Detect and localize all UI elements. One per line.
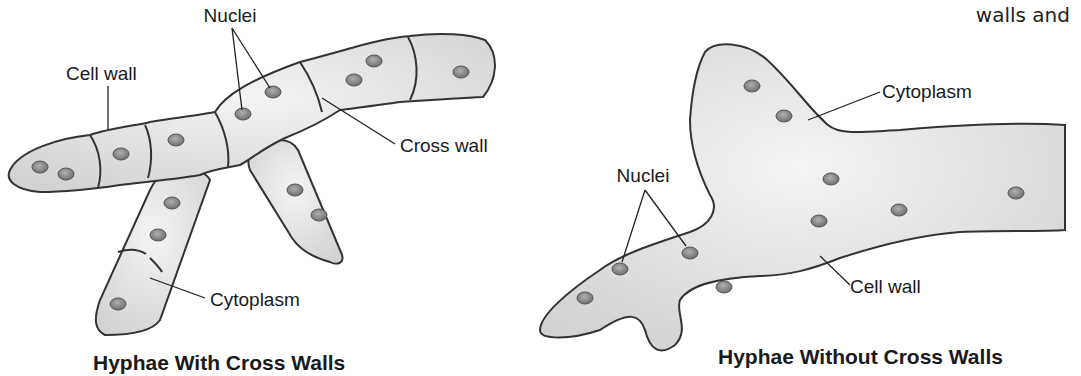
label-cytoplasm-right: Cytoplasm (882, 81, 972, 102)
label-nuclei-right: Nuclei (617, 165, 670, 186)
lower-branch (96, 169, 210, 335)
label-cell-wall-left: Cell wall (66, 63, 137, 84)
label-cross-wall: Cross wall (400, 135, 488, 156)
label-cell-wall-right: Cell wall (850, 276, 921, 297)
title-coenocytic: Hyphae Without Cross Walls (718, 345, 1003, 368)
hyphae-diagram: walls and (0, 0, 1081, 376)
coenocytic-hyphae: Nuclei Cytoplasm Cell wall Hyphae Withou… (540, 44, 1065, 368)
label-cytoplasm-left: Cytoplasm (210, 289, 300, 310)
right-branch (248, 140, 342, 264)
title-septate: Hyphae With Cross Walls (93, 351, 345, 374)
label-nuclei-left: Nuclei (204, 5, 257, 26)
septate-hyphae: Nuclei Cell wall Cross wall Cytoplasm Hy… (9, 5, 495, 374)
corner-text: walls and (976, 3, 1070, 27)
